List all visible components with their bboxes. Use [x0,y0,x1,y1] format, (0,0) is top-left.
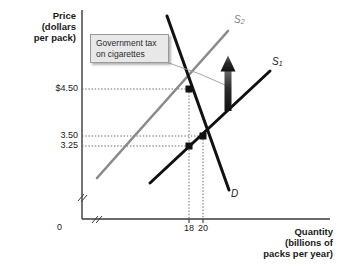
supply-1-label: S1 [272,56,283,67]
callout-leader-line [166,62,225,85]
y-tick-label-450: $4.50 [30,83,78,93]
supply-shift-arrow [221,56,236,112]
tax-callout-box: Government tax on cigarettes [90,34,169,63]
point-seller-price [186,143,193,150]
demand-label: D [231,188,238,199]
x-axis-title: Quantity (billions of packs per year) [215,226,333,259]
y-axis-title: Price (dollars per pack) [14,10,76,43]
y-tick-label-325: 3.25 [30,140,78,150]
guide-lines [82,89,203,219]
point-original-equilibrium [200,133,207,140]
supply-curve-s1 [150,71,270,183]
y-tick-label-350: 3.50 [30,130,78,140]
origin-label: 0 [57,222,62,232]
supply-2-label: S2 [234,14,245,25]
figure-canvas: Price (dollars per pack) $4.50 3.50 3.25… [0,0,341,277]
x-tick-label-20: 20 [195,223,211,233]
point-new-equilibrium [186,86,193,93]
